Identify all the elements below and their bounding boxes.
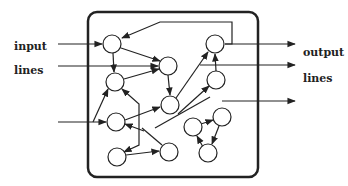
node-k [213,108,231,126]
edge-l-j [197,136,203,147]
edge-to-b [122,89,139,118]
edge-b-e [124,69,159,79]
input-label: input [14,40,47,53]
node-d [108,148,126,166]
node-f [161,96,179,114]
node-b [106,73,124,91]
node-a [103,35,121,53]
node-h [206,35,224,53]
edge-g-line [142,128,162,145]
edge-k-l [212,126,219,144]
node-c [107,113,125,131]
edge-g-c [125,124,144,131]
output-label: output [303,46,344,59]
node-j [184,118,202,136]
edge-c-f [125,107,160,120]
edge-d-g [126,151,159,155]
node-i [207,71,225,89]
edge-a-b [113,53,114,72]
edge-to-d [124,118,139,152]
edge-a-e [121,48,160,61]
node-g [160,143,178,161]
node-e [159,57,177,75]
input-lines-label: lines [14,64,44,77]
edge-e-f [168,75,170,95]
node-l [199,144,217,162]
edge-j-k [201,120,213,124]
network-diagram [0,0,348,186]
edge-in-b [93,89,108,122]
output-lines-label: lines [303,72,333,85]
edge-i-h [215,54,216,71]
